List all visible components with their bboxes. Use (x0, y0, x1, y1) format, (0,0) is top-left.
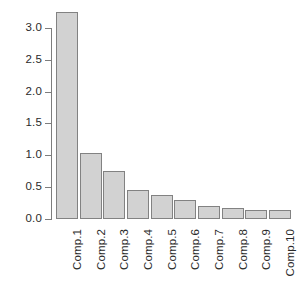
bar (103, 171, 125, 219)
bar (245, 210, 267, 219)
bar (80, 153, 102, 219)
scree-plot: 0.00.51.01.52.02.53.0 Comp.1Comp.2Comp.3… (0, 0, 302, 300)
x-tick-label: Comp.10 (285, 229, 297, 276)
x-tick-label: Comp.4 (143, 229, 155, 270)
bar (127, 190, 149, 219)
bar (56, 12, 78, 219)
x-tick-label: Comp.8 (238, 229, 250, 270)
x-tick-label: Comp.2 (96, 229, 108, 270)
bar (269, 210, 291, 219)
bar (222, 208, 244, 219)
x-tick-label: Comp.6 (190, 229, 202, 270)
plot-area: 0.00.51.01.52.02.53.0 Comp.1Comp.2Comp.3… (0, 0, 302, 300)
x-tick-label: Comp.3 (119, 229, 131, 270)
x-tick-label: Comp.1 (72, 229, 84, 270)
bar (174, 200, 196, 219)
x-tick-label: Comp.9 (261, 229, 273, 270)
x-tick-label: Comp.5 (167, 229, 179, 270)
x-tick-label: Comp.7 (214, 229, 226, 270)
x-axis-labels: Comp.1Comp.2Comp.3Comp.4Comp.5Comp.6Comp… (0, 219, 302, 300)
bar (198, 206, 220, 219)
bar (151, 195, 173, 219)
